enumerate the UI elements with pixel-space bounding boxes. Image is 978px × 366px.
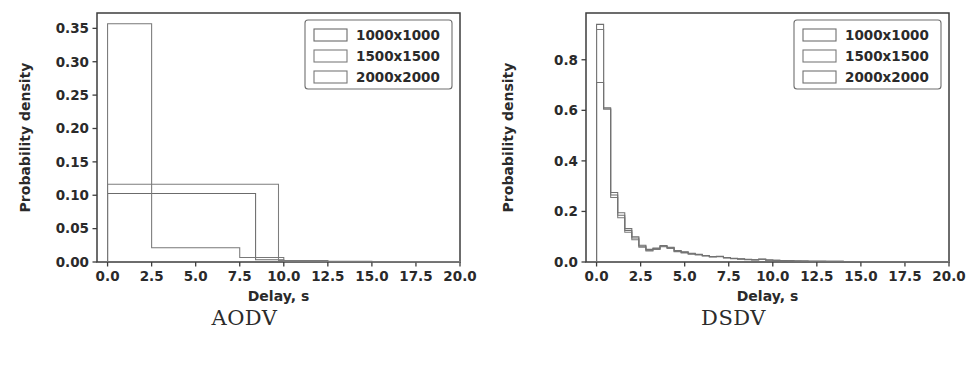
- x-tick-label: 0.0: [96, 268, 120, 284]
- y-axis-title: Probability density: [500, 63, 516, 213]
- y-tick-label: 0.10: [56, 187, 89, 203]
- chart-svg-aodv: 0.02.55.07.510.012.515.017.520.00.000.05…: [0, 0, 489, 305]
- legend-label-1000x1000: 1000x1000: [845, 27, 929, 43]
- panel-caption-dsdv: DSDV: [489, 306, 978, 330]
- series-outline-1000x1000: [108, 194, 460, 262]
- chart-panel-dsdv: 0.02.55.07.510.012.515.017.520.00.00.20.…: [489, 0, 978, 366]
- y-tick-label: 0.20: [56, 120, 89, 136]
- legend-label-1500x1500: 1500x1500: [845, 48, 929, 64]
- y-tick-label: 0.35: [56, 20, 89, 36]
- y-tick-label: 0.30: [56, 54, 89, 70]
- legend-swatch-1500x1500: [314, 50, 347, 62]
- x-tick-label: 12.5: [800, 268, 833, 284]
- x-tick-label: 10.0: [756, 268, 789, 284]
- chart-panel-aodv: 0.02.55.07.510.012.515.017.520.00.000.05…: [0, 0, 489, 366]
- legend-swatch-1000x1000: [803, 29, 836, 41]
- y-tick-label: 0.0: [554, 254, 578, 270]
- x-axis-title: Delay, s: [737, 288, 799, 304]
- y-tick-label: 0.4: [554, 153, 578, 169]
- x-axis-title: Delay, s: [248, 288, 310, 304]
- x-tick-label: 2.5: [629, 268, 653, 284]
- chart-svg-dsdv: 0.02.55.07.510.012.515.017.520.00.00.20.…: [489, 0, 978, 305]
- x-tick-label: 5.0: [184, 268, 208, 284]
- series-outline-1500x1500: [108, 184, 460, 262]
- x-tick-label: 10.0: [267, 268, 300, 284]
- y-tick-label: 0.2: [554, 203, 578, 219]
- legend-swatch-1500x1500: [803, 50, 836, 62]
- y-tick-label: 0.15: [56, 154, 89, 170]
- plot-area-dsdv: 0.02.55.07.510.012.515.017.520.00.00.20.…: [489, 0, 978, 305]
- legend-label-2000x2000: 2000x2000: [845, 69, 929, 85]
- y-tick-label: 0.8: [554, 52, 578, 68]
- x-tick-label: 7.5: [228, 268, 252, 284]
- series-outline-2000x2000: [597, 83, 949, 262]
- figure-panel-row: 0.02.55.07.510.012.515.017.520.00.000.05…: [0, 0, 978, 366]
- x-tick-label: 5.0: [673, 268, 697, 284]
- y-axis-title: Probability density: [17, 63, 33, 213]
- legend-swatch-1000x1000: [314, 29, 347, 41]
- x-tick-label: 17.5: [888, 268, 921, 284]
- y-tick-label: 0.25: [56, 87, 89, 103]
- legend-label-1500x1500: 1500x1500: [356, 48, 440, 64]
- x-tick-label: 20.0: [443, 268, 476, 284]
- x-tick-label: 12.5: [311, 268, 344, 284]
- x-tick-label: 17.5: [399, 268, 432, 284]
- legend-swatch-2000x2000: [314, 71, 347, 83]
- plot-area-aodv: 0.02.55.07.510.012.515.017.520.00.000.05…: [0, 0, 489, 305]
- legend: 1000x10001500x15002000x2000: [794, 20, 941, 89]
- legend-label-1000x1000: 1000x1000: [356, 27, 440, 43]
- legend-swatch-2000x2000: [803, 71, 836, 83]
- x-tick-label: 15.0: [844, 268, 877, 284]
- y-tick-label: 0.00: [56, 254, 89, 270]
- x-tick-label: 2.5: [140, 268, 164, 284]
- legend: 1000x10001500x15002000x2000: [305, 20, 452, 89]
- x-tick-label: 15.0: [355, 268, 388, 284]
- legend-label-2000x2000: 2000x2000: [356, 69, 440, 85]
- panel-caption-aodv: AODV: [0, 306, 489, 330]
- x-tick-label: 7.5: [717, 268, 741, 284]
- y-tick-label: 0.05: [56, 220, 89, 236]
- x-tick-label: 20.0: [932, 268, 965, 284]
- x-tick-label: 0.0: [585, 268, 609, 284]
- y-tick-label: 0.6: [554, 102, 578, 118]
